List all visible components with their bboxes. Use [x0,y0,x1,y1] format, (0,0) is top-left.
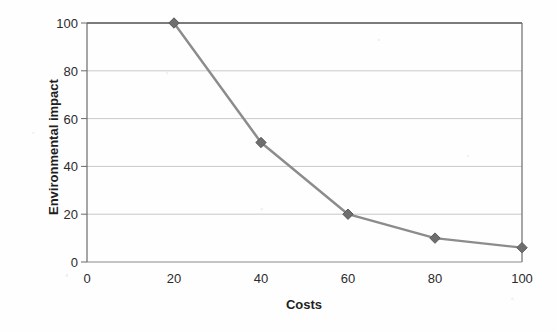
x-axis-title: Costs [286,297,322,312]
gridlines [87,71,522,214]
x-tick-label: 0 [83,271,90,286]
data-series-environmental-impact [169,18,527,253]
x-tick-label: 60 [341,271,355,286]
y-tick-label: 100 [40,16,78,31]
x-tick-label: 80 [428,271,442,286]
y-tick-label: 0 [40,255,78,270]
y-tick-label: 80 [40,63,78,78]
x-tick-label: 20 [167,271,181,286]
x-tick-label: 40 [254,271,268,286]
plot-border [87,23,522,262]
chart-figure: 020406080100 020406080100 Costs Environm… [0,0,557,332]
x-tick-label: 100 [511,271,533,286]
y-axis-ticks [81,23,87,262]
data-point-marker [517,242,527,252]
y-axis-title: Environmental impact [46,79,61,215]
data-point-marker [430,233,440,243]
